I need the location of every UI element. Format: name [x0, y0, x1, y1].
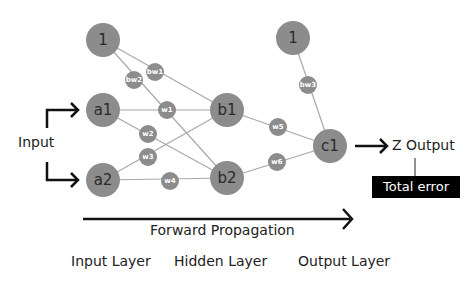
node-label: 1: [288, 29, 298, 47]
total-error-badge: Total error: [372, 176, 460, 198]
node-a2: a2: [86, 163, 120, 197]
input-arrow-lower-icon: [47, 162, 76, 180]
weight-label: w3: [142, 153, 153, 161]
node-bias1: 1: [86, 23, 120, 57]
node-label: a2: [94, 171, 113, 189]
node-label: b2: [217, 169, 236, 187]
node-a1: a1: [86, 93, 120, 127]
weight-w2: w2: [139, 125, 157, 143]
node-bias2: 1: [276, 21, 310, 55]
weight-bw3: bw3: [299, 76, 317, 94]
node-b1: b1: [210, 93, 244, 127]
weight-label: bw1: [147, 68, 163, 76]
weight-bw2: bw2: [125, 71, 143, 89]
output-arrow-icon: [355, 139, 387, 153]
weight-bw1: bw1: [146, 63, 164, 81]
forward-propagation-label: Forward Propagation: [150, 222, 295, 238]
weight-w6: w6: [268, 153, 286, 171]
node-label: a1: [94, 101, 113, 119]
node-b2: b2: [210, 161, 244, 195]
weight-w4: w4: [161, 172, 179, 190]
weight-label: w6: [271, 158, 282, 166]
input-label: Input: [18, 134, 54, 150]
input-arrow-upper-icon: [47, 110, 76, 128]
weight-label: w4: [164, 177, 175, 185]
weight-label: bw2: [126, 76, 142, 84]
weight-w3: w3: [139, 148, 157, 166]
z-output-label: Z Output: [392, 137, 455, 153]
output-layer-label: Output Layer: [298, 253, 390, 269]
edge-bias1-b1: [103, 40, 227, 110]
node-c1: c1: [313, 129, 347, 163]
node-label: 1: [98, 31, 108, 49]
weight-w5: w5: [269, 118, 287, 136]
weight-label: w1: [161, 106, 172, 114]
weight-w1: w1: [158, 101, 176, 119]
weight-label: bw3: [300, 81, 316, 89]
node-label: c1: [321, 137, 339, 155]
weight-label: w5: [272, 123, 283, 131]
node-label: b1: [217, 101, 236, 119]
input-layer-label: Input Layer: [71, 253, 151, 269]
hidden-layer-label: Hidden Layer: [174, 253, 267, 269]
weight-label: w2: [142, 130, 153, 138]
